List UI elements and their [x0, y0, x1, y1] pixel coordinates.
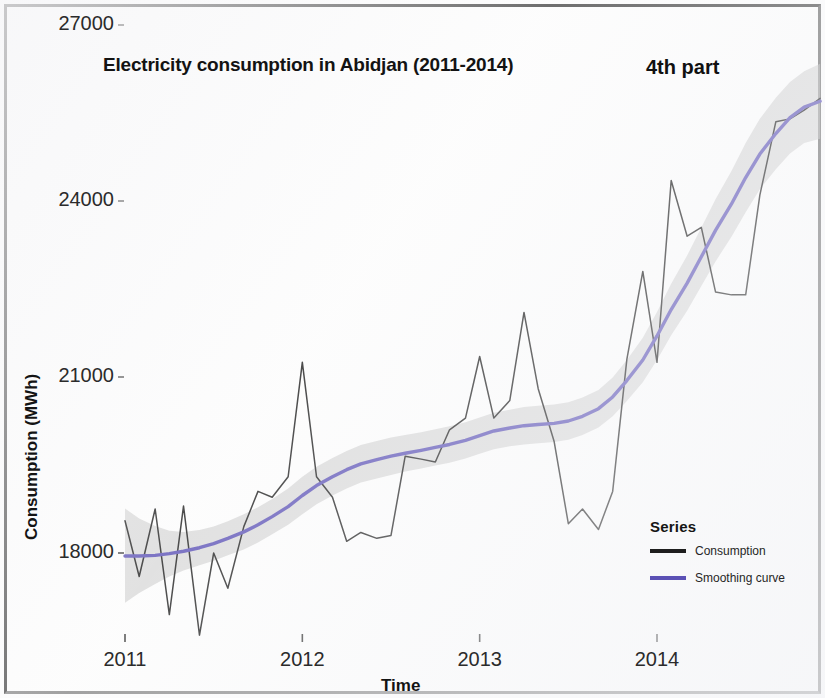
y-tick-label: 27000	[22, 12, 114, 35]
x-tick-label: 2013	[450, 648, 510, 671]
legend-entry: Smoothing curve	[650, 571, 815, 585]
y-tick-label: 21000	[22, 364, 114, 387]
legend-swatch	[650, 576, 686, 580]
y-tick-label: 24000	[22, 188, 114, 211]
legend: Series ConsumptionSmoothing curve	[650, 518, 815, 598]
legend-swatch	[650, 549, 686, 553]
chart-title: Electricity consumption in Abidjan (2011…	[103, 54, 513, 76]
chart-figure: Electricity consumption in Abidjan (2011…	[0, 0, 825, 698]
smoothing-curve-line	[125, 101, 820, 556]
legend-label: Consumption	[695, 544, 766, 558]
part-annotation: 4th part	[646, 56, 719, 79]
legend-label: Smoothing curve	[695, 571, 785, 585]
legend-entry: Consumption	[650, 544, 815, 558]
legend-entries: ConsumptionSmoothing curve	[650, 544, 815, 585]
x-tick-label: 2014	[627, 648, 687, 671]
legend-title: Series	[650, 518, 815, 535]
y-axis-label: Consumption (MWh)	[22, 374, 42, 540]
x-tick-label: 2011	[95, 648, 155, 671]
x-axis-label: Time	[381, 676, 420, 696]
x-tick-label: 2012	[272, 648, 332, 671]
y-tick-label: 18000	[22, 540, 114, 563]
